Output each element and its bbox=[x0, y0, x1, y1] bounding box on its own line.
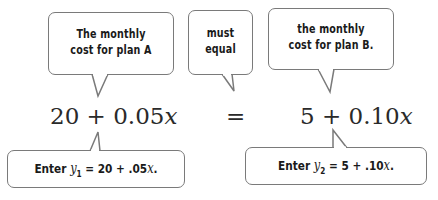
bottom-tail-masks bbox=[0, 0, 438, 200]
